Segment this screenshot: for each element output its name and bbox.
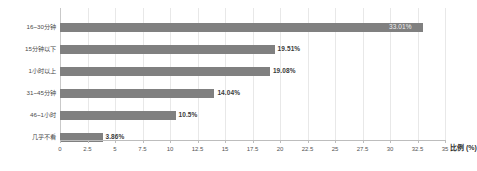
bar-value-label: 19.51% xyxy=(278,46,301,53)
x-tick-mark xyxy=(280,140,281,143)
bar-value-label: 10.5% xyxy=(179,112,198,119)
category-label: 几乎不看 xyxy=(0,134,56,140)
x-tick-label: 32.5 xyxy=(412,146,424,152)
bar-row: 19.51% xyxy=(60,38,445,60)
x-tick-mark xyxy=(253,140,254,143)
gridline-35 xyxy=(445,8,446,140)
bar-row: 33.01% xyxy=(60,16,445,38)
x-tick-label: 2.5 xyxy=(83,146,91,152)
category-label: 46~1小时 xyxy=(0,112,56,118)
x-tick-mark xyxy=(335,140,336,143)
x-tick-label: 5 xyxy=(113,146,116,152)
bar[interactable] xyxy=(60,67,270,76)
x-tick-mark xyxy=(198,140,199,143)
x-tick-label: 22.5 xyxy=(302,146,314,152)
category-label: 1小时以上 xyxy=(0,68,56,74)
x-tick-mark xyxy=(170,140,171,143)
bar[interactable] xyxy=(60,89,214,98)
x-tick-mark xyxy=(418,140,419,143)
bar-row: 10.5% xyxy=(60,104,445,126)
x-tick-mark xyxy=(445,140,446,143)
bar-row: 3.86% xyxy=(60,126,445,148)
x-tick-label: 17.5 xyxy=(247,146,259,152)
x-tick-label: 27.5 xyxy=(357,146,369,152)
bar[interactable] xyxy=(60,23,423,32)
bar-value-label: 33.01% xyxy=(389,24,412,31)
bar[interactable] xyxy=(60,45,275,54)
x-tick-label: 30 xyxy=(387,146,394,152)
x-tick-label: 20 xyxy=(277,146,284,152)
bar-row: 19.08% xyxy=(60,60,445,82)
x-axis-title: 比例 (%) xyxy=(450,144,477,151)
x-tick-label: 7.5 xyxy=(138,146,146,152)
plot-area: 33.01% 19.51% 19.08% 14.04% 10.5% 3.86% xyxy=(60,8,445,140)
x-tick-label: 25 xyxy=(332,146,339,152)
x-tick-mark xyxy=(88,140,89,143)
category-axis: 16~30分钟 15分钟以下 1小时以上 31~45分钟 46~1小时 几乎不看 xyxy=(0,8,60,140)
bar[interactable] xyxy=(60,111,176,120)
bar-value-label: 14.04% xyxy=(217,90,240,97)
x-tick-mark xyxy=(115,140,116,143)
category-label: 31~45分钟 xyxy=(0,90,56,96)
x-tick-label: 12.5 xyxy=(192,146,204,152)
x-tick-mark xyxy=(143,140,144,143)
x-tick-label: 10 xyxy=(167,146,174,152)
category-label: 15分钟以下 xyxy=(0,46,56,52)
x-tick-label: 0 xyxy=(58,146,61,152)
x-tick-mark xyxy=(225,140,226,143)
x-tick-mark xyxy=(363,140,364,143)
x-tick-label: 15 xyxy=(222,146,229,152)
bar-value-label: 19.08% xyxy=(273,68,296,75)
x-tick-mark xyxy=(60,140,61,143)
x-tick-label: 35 xyxy=(442,146,449,152)
x-tick-mark xyxy=(390,140,391,143)
x-tick-mark xyxy=(308,140,309,143)
category-label: 16~30分钟 xyxy=(0,24,56,30)
bar-row: 14.04% xyxy=(60,82,445,104)
